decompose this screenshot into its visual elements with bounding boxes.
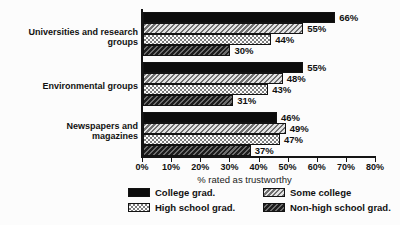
bar-solid	[143, 12, 335, 23]
value-label: 55%	[307, 62, 326, 73]
bar-dark-hatch	[143, 145, 251, 156]
legend-label: Non-high school grad.	[290, 202, 391, 213]
bar-dark-hatch	[143, 95, 233, 106]
legend-swatch-solid	[128, 188, 150, 197]
legend-swatch-dot-stipple	[128, 203, 150, 212]
plot-area: 66%55%44%30%55%48%43%31%46%49%47%37%	[141, 9, 376, 158]
bar-dot-stipple	[143, 84, 268, 95]
bar-light-hatch	[143, 123, 286, 134]
value-label: 30%	[234, 45, 253, 56]
category-label: Universities and research groups	[18, 27, 138, 47]
bar-solid	[143, 112, 277, 123]
bar-light-hatch	[143, 73, 283, 84]
value-label: 43%	[272, 84, 291, 95]
value-label: 47%	[284, 134, 303, 145]
legend-swatch-dark-hatch	[263, 203, 285, 212]
category-label: Environmental groups	[18, 81, 138, 91]
bar-dot-stipple	[143, 134, 280, 145]
value-label: 55%	[307, 23, 326, 34]
value-label: 49%	[290, 123, 309, 134]
bar-chart-figure: 66%55%44%30%55%48%43%31%46%49%47%37% Uni…	[0, 0, 400, 225]
bar-dot-stipple	[143, 34, 271, 45]
legend-label: High school grad.	[155, 202, 235, 213]
category-label: Newspapers and magazines	[18, 121, 138, 141]
bar-dark-hatch	[143, 45, 230, 56]
x-axis-title: % rated as trustworthy	[128, 174, 361, 185]
tick-label: 80%	[358, 162, 392, 172]
legend-label: College grad.	[155, 187, 215, 198]
value-label: 44%	[275, 34, 294, 45]
value-label: 37%	[255, 145, 274, 156]
value-label: 66%	[339, 12, 358, 23]
bar-solid	[143, 62, 303, 73]
legend-swatch-light-hatch	[263, 188, 285, 197]
bar-light-hatch	[143, 23, 303, 34]
legend-label: Some college	[290, 187, 351, 198]
value-label: 31%	[237, 95, 256, 106]
value-label: 46%	[281, 112, 300, 123]
value-label: 48%	[287, 73, 306, 84]
